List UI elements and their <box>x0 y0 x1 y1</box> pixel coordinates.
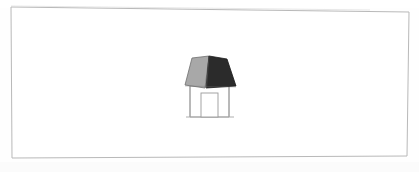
paper-tone-bottom <box>0 162 419 172</box>
house <box>185 56 236 117</box>
door <box>201 93 218 117</box>
screenshot-canvas: House Sketch <box>0 0 419 172</box>
house-drawing-scene <box>0 0 419 172</box>
